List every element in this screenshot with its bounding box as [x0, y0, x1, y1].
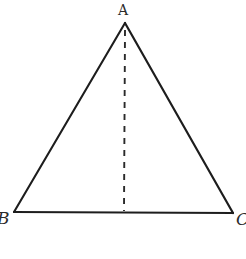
vertex-label-a: A [118, 3, 128, 17]
figure-background [0, 0, 246, 259]
triangle-diagram-canvas [0, 0, 246, 259]
triangle-base-bc [14, 212, 233, 213]
vertex-label-c: C [236, 211, 246, 228]
geometry-figure: A B C [0, 0, 246, 259]
vertex-label-b: B [0, 210, 10, 227]
